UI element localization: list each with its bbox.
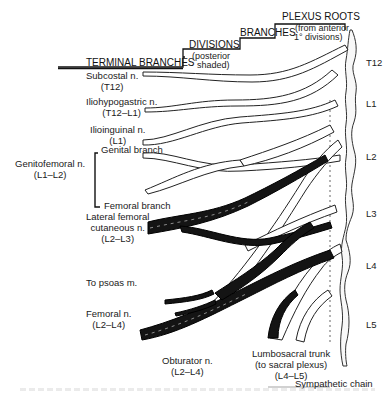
level-L2: L2 xyxy=(366,151,377,162)
label-iliohypogastric: Iliohypogastric n. (T12–L1) xyxy=(86,96,157,118)
label-to-psoas: To psoas m. xyxy=(86,277,137,288)
label-lfcn-name: Lateral femoral xyxy=(86,211,149,222)
label-lumbosacral-name: Lumbosacral trunk xyxy=(252,348,330,359)
label-genital-branch: Genital branch xyxy=(101,144,163,155)
label-ilioinguinal: Ilioinguinal n. (L1) xyxy=(90,124,145,146)
label-subcostal-roots: (T12) xyxy=(86,81,138,92)
genitofemoral-bracket xyxy=(95,153,100,207)
level-L4: L4 xyxy=(366,260,377,271)
label-lfcn-roots: (L2–L3) xyxy=(86,233,149,244)
level-L5: L5 xyxy=(366,319,377,330)
label-subcostal: Subcostal n. (T12) xyxy=(86,70,138,92)
label-femoral-branch: Femoral branch xyxy=(104,200,171,211)
label-genitofemoral-roots: (L1–L2) xyxy=(15,169,85,180)
label-ilioinguinal-name: Ilioinguinal n. xyxy=(90,124,145,135)
label-lumbosacral-name2: (to sacral plexus) xyxy=(252,359,330,370)
header-branches: BRANCHES xyxy=(240,27,296,38)
label-femoral-roots: (L2–L4) xyxy=(86,319,131,330)
sympathetic-chain xyxy=(340,30,356,366)
label-lateral-femoral-cutaneous: Lateral femoral cutaneous n. (L2–L3) xyxy=(86,211,149,244)
label-obturator-name: Obturator n. xyxy=(162,355,213,366)
label-genitofemoral-name: Genitofemoral n. xyxy=(15,158,85,169)
label-lumbosacral-trunk: Lumbosacral trunk (to sacral plexus) (L4… xyxy=(252,348,330,381)
header-terminal-branches: TERMINAL BRANCHES xyxy=(86,57,195,68)
figure-caption-illegible xyxy=(20,388,375,391)
label-genitofemoral: Genitofemoral n. (L1–L2) xyxy=(15,158,85,180)
level-L1: L1 xyxy=(366,98,377,109)
label-iliohypogastric-roots: (T12–L1) xyxy=(86,107,157,118)
header-plexus-roots: PLEXUS ROOTS xyxy=(282,11,360,22)
level-T12: T12 xyxy=(366,57,382,68)
label-femoral-name: Femoral n. xyxy=(86,308,131,319)
label-obturator: Obturator n. (L2–L4) xyxy=(162,355,213,377)
header-divisions: DIVISIONS xyxy=(189,39,240,50)
divisions-note-2: shaded) xyxy=(197,60,230,70)
plexus-roots-note-2: 1° divisions) xyxy=(294,32,343,42)
label-femoral: Femoral n. (L2–L4) xyxy=(86,308,131,330)
level-L3: L3 xyxy=(366,208,377,219)
label-lfcn-name2: cutaneous n. xyxy=(86,222,149,233)
label-subcostal-name: Subcostal n. xyxy=(86,70,138,81)
label-iliohypogastric-name: Iliohypogastric n. xyxy=(86,96,157,107)
label-obturator-roots: (L2–L4) xyxy=(162,366,213,377)
